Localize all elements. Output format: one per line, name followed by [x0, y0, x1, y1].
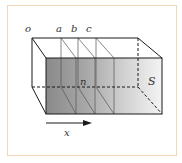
- label-plane-b: b: [71, 23, 77, 34]
- label-plane-a: a: [56, 23, 62, 34]
- label-plane-c: c: [86, 23, 92, 34]
- prism-diagram: o a b c n S x: [0, 0, 182, 163]
- label-normal: n: [80, 76, 86, 87]
- x-axis-arrow: [46, 120, 92, 126]
- label-surface: S: [148, 75, 156, 88]
- label-origin: o: [25, 23, 31, 34]
- front-face: [46, 58, 162, 114]
- label-axis-x: x: [64, 127, 70, 138]
